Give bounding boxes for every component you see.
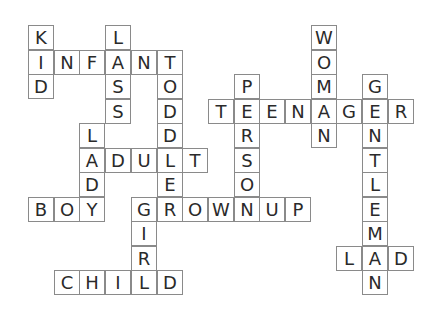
- crossword-cell: D: [388, 246, 414, 271]
- crossword-cell: G: [362, 74, 388, 99]
- crossword-cell: A: [79, 148, 105, 173]
- crossword-cell: M: [311, 74, 337, 99]
- crossword-cell: B: [28, 197, 54, 222]
- crossword-cell: E: [234, 99, 260, 124]
- crossword-cell: L: [362, 172, 388, 197]
- crossword-cell: R: [131, 246, 157, 271]
- crossword-cell: P: [285, 197, 311, 222]
- crossword-cell: F: [79, 50, 105, 75]
- crossword-cell: K: [28, 25, 54, 50]
- crossword-cell: I: [131, 221, 157, 246]
- crossword-cell: S: [105, 74, 131, 99]
- crossword-cell: O: [54, 197, 80, 222]
- crossword-cell: W: [311, 25, 337, 50]
- crossword-cell: I: [28, 50, 54, 75]
- crossword-cell: T: [208, 99, 234, 124]
- crossword-cell: N: [362, 123, 388, 148]
- crossword-cell: D: [79, 172, 105, 197]
- crossword-cell: L: [105, 25, 131, 50]
- crossword-cell: L: [157, 148, 183, 173]
- crossword-cell: P: [234, 74, 260, 99]
- crossword-cell: T: [157, 50, 183, 75]
- crossword-cell: D: [28, 74, 54, 99]
- crossword-cell: D: [105, 148, 131, 173]
- crossword-cell: A: [105, 50, 131, 75]
- crossword-cell: O: [234, 172, 260, 197]
- crossword-cell: U: [259, 197, 285, 222]
- crossword-cell: N: [131, 50, 157, 75]
- crossword-cell: W: [208, 197, 234, 222]
- crossword-cell: L: [79, 123, 105, 148]
- crossword-cell: E: [157, 172, 183, 197]
- crossword-cell: O: [157, 74, 183, 99]
- crossword-cell: S: [234, 148, 260, 173]
- crossword-cell: N: [285, 99, 311, 124]
- crossword-cell: T: [182, 148, 208, 173]
- crossword-cell: A: [311, 99, 337, 124]
- crossword-cell: C: [54, 270, 80, 295]
- crossword-cell: N: [54, 50, 80, 75]
- crossword-cell: A: [362, 246, 388, 271]
- crossword-cell: O: [311, 50, 337, 75]
- crossword-cell: D: [157, 270, 183, 295]
- crossword-cell: R: [388, 99, 414, 124]
- crossword-cell: I: [105, 270, 131, 295]
- crossword-cell: E: [259, 99, 285, 124]
- crossword-cell: D: [157, 123, 183, 148]
- crossword-cell: Y: [79, 197, 105, 222]
- crossword-grid: KIDNFANTLSSODDLERLADYDUTBOGOWNUPIRLCHIDP…: [0, 0, 442, 310]
- crossword-cell: G: [131, 197, 157, 222]
- crossword-cell: L: [131, 270, 157, 295]
- crossword-cell: R: [234, 123, 260, 148]
- crossword-cell: N: [362, 270, 388, 295]
- crossword-cell: G: [336, 99, 362, 124]
- crossword-cell: M: [362, 221, 388, 246]
- crossword-cell: D: [157, 99, 183, 124]
- crossword-cell: O: [182, 197, 208, 222]
- crossword-cell: U: [131, 148, 157, 173]
- crossword-cell: T: [362, 148, 388, 173]
- crossword-cell: N: [311, 123, 337, 148]
- crossword-cell: S: [105, 99, 131, 124]
- crossword-cell: L: [336, 246, 362, 271]
- crossword-cell: E: [362, 99, 388, 124]
- crossword-cell: E: [362, 197, 388, 222]
- crossword-cell: N: [234, 197, 260, 222]
- crossword-cell: R: [157, 197, 183, 222]
- crossword-cell: H: [79, 270, 105, 295]
